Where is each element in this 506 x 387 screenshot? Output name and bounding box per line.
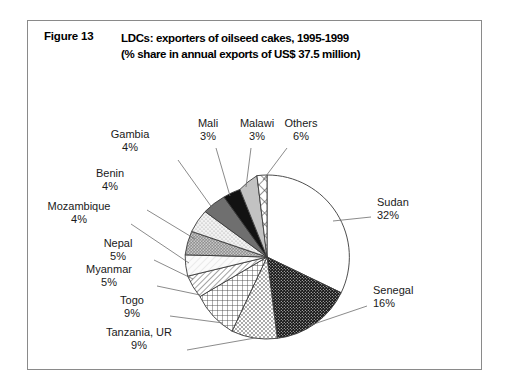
leader-line-gambia [178, 160, 213, 209]
pie-label-togo: Togo 9% [100, 294, 164, 320]
pie-label-mozambique-value: 4% [27, 213, 131, 226]
pie-label-nepal-value: 5% [84, 250, 152, 263]
pie-label-sudan: Sudan 32% [377, 196, 409, 222]
pie-label-mozambique: Mozambique 4% [27, 200, 131, 226]
pie-label-others: Others 6% [270, 117, 332, 143]
pie-label-senegal-value: 16% [373, 297, 413, 310]
pie-label-togo-value: 9% [100, 307, 164, 320]
pie-label-others-value: 6% [270, 130, 332, 143]
pie-label-tanzania: Tanzania, UR 9% [89, 326, 189, 352]
pie-label-myanmar-name: Myanmar [65, 263, 153, 276]
pie-label-tanzania-name: Tanzania, UR [89, 326, 189, 339]
leader-line-mali [216, 148, 230, 196]
pie-chart-svg [27, 20, 482, 370]
pie-label-togo-name: Togo [100, 294, 164, 307]
pie-chart-area: Sudan 32% Senegal 16% Tanzania, UR 9% To… [27, 20, 482, 370]
pie-label-benin-value: 4% [76, 180, 144, 193]
pie-label-sudan-name: Sudan [377, 196, 409, 209]
pie-label-nepal-name: Nepal [84, 237, 152, 250]
pie-label-gambia-name: Gambia [87, 128, 173, 141]
pie-label-mozambique-name: Mozambique [27, 200, 131, 213]
pie-label-myanmar-value: 5% [65, 276, 153, 289]
figure-screenshot: Figure 13 LDCs: exporters of oilseed cak… [0, 0, 506, 387]
pie-label-others-name: Others [270, 117, 332, 130]
pie-label-gambia: Gambia 4% [87, 128, 173, 154]
leader-line-benin [147, 210, 195, 239]
pie-label-nepal: Nepal 5% [84, 237, 152, 263]
pie-label-senegal-name: Senegal [373, 284, 413, 297]
pie-label-gambia-value: 4% [87, 141, 173, 154]
pie-label-benin-name: Benin [76, 167, 144, 180]
pie-slices [185, 175, 349, 339]
pie-label-tanzania-value: 9% [89, 339, 189, 352]
pie-label-benin: Benin 4% [76, 167, 144, 193]
pie-label-myanmar: Myanmar 5% [65, 263, 153, 289]
leader-line-tanzania [187, 338, 255, 350]
pie-label-senegal: Senegal 16% [373, 284, 413, 310]
pie-label-sudan-value: 32% [377, 209, 409, 222]
